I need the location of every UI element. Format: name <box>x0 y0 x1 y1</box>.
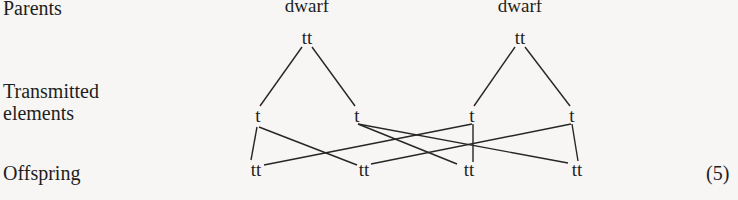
edge-t1-o3 <box>358 124 568 163</box>
offspring-3: tt <box>572 160 583 180</box>
parent-1-genotype: tt <box>515 28 526 48</box>
transmitted-0: t <box>255 106 260 126</box>
transmitted-2: t <box>469 106 474 126</box>
edge-p1-t2 <box>474 47 515 106</box>
edge-p0-t0 <box>260 47 302 106</box>
edge-t0-o1 <box>259 127 357 165</box>
parent-1-phenotype: dwarf <box>498 0 542 16</box>
edge-t3-o3 <box>572 124 578 161</box>
edge-p1-t3 <box>525 47 570 106</box>
transmitted-1: t <box>354 106 359 126</box>
edge-t0-o0 <box>251 127 257 160</box>
edge-p0-t1 <box>312 47 355 106</box>
equation-number: (5) <box>706 162 729 184</box>
offspring-0: tt <box>251 160 262 180</box>
transmitted-3: t <box>569 106 574 126</box>
offspring-2: tt <box>464 160 475 180</box>
offspring-1: tt <box>359 160 370 180</box>
parent-0-genotype: tt <box>302 28 313 48</box>
parent-0-phenotype: dwarf <box>285 0 329 16</box>
